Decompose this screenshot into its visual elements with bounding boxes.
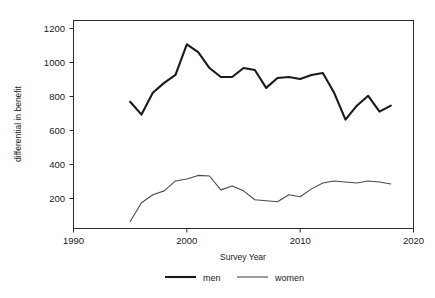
chart-background bbox=[0, 0, 435, 298]
x-tick-label: 2020 bbox=[403, 235, 424, 246]
chart-container: 1200 1000 800 600 400 200 1990 2000 2010… bbox=[0, 0, 435, 298]
x-axis-title: Survey Year bbox=[220, 252, 266, 262]
y-tick-label: 800 bbox=[49, 91, 65, 102]
legend-label-women: women bbox=[274, 273, 304, 283]
x-tick-label: 2010 bbox=[290, 235, 311, 246]
y-tick-label: 400 bbox=[49, 159, 65, 170]
x-tick-label: 1990 bbox=[63, 235, 84, 246]
y-tick-label: 200 bbox=[49, 193, 65, 204]
line-chart: 1200 1000 800 600 400 200 1990 2000 2010… bbox=[0, 0, 435, 298]
y-tick-label: 1000 bbox=[44, 57, 65, 68]
x-tick-label: 2000 bbox=[176, 235, 197, 246]
y-tick-label: 1200 bbox=[44, 23, 65, 34]
y-axis-title: differential in benefit bbox=[13, 85, 23, 162]
y-tick-label: 600 bbox=[49, 125, 65, 136]
legend-label-men: men bbox=[203, 273, 221, 283]
